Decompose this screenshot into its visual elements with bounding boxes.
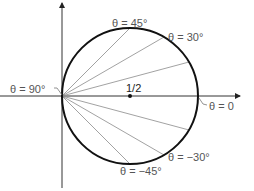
ray-neg30: [62, 96, 164, 155]
label-theta-neg30: θ = −30°: [168, 151, 210, 163]
leader-theta-90: [54, 88, 62, 95]
ray-neg15: [62, 96, 189, 130]
ray-30: [62, 37, 164, 96]
label-theta-30: θ = 30°: [168, 31, 203, 43]
center-label: 1/2: [126, 82, 141, 94]
label-theta-0: θ = 0: [209, 100, 234, 112]
label-theta-neg45: θ = −45°: [120, 165, 162, 177]
label-theta-45: θ = 45°: [112, 17, 147, 29]
polar-circle-diagram: 1/2 θ = 45° θ = 30° θ = 90° θ = 0 θ = −3…: [0, 0, 254, 191]
leader-theta-0: [199, 98, 207, 105]
label-theta-90: θ = 90°: [10, 83, 45, 95]
center-point: [128, 94, 132, 98]
